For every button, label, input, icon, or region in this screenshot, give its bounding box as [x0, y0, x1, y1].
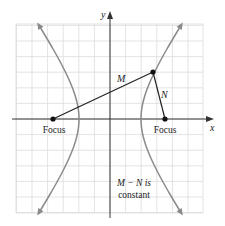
note-line-1: M − N is [116, 178, 151, 188]
segment-n-label: N [160, 89, 169, 100]
y-axis-arrow-icon [107, 11, 113, 19]
right-focus-point [162, 116, 167, 121]
segment-m-label: M [116, 73, 126, 84]
x-axis-label: x [209, 122, 215, 133]
hyperbola-diagram: x y M N Focus Focus M − N is constant [0, 0, 225, 226]
curve-point [150, 69, 155, 74]
right-focus-label: Focus [154, 125, 177, 135]
left-focus-point [50, 116, 55, 121]
left-focus-label: Focus [43, 125, 66, 135]
note-line-2: constant [118, 190, 150, 200]
y-axis-label: y [100, 9, 106, 20]
